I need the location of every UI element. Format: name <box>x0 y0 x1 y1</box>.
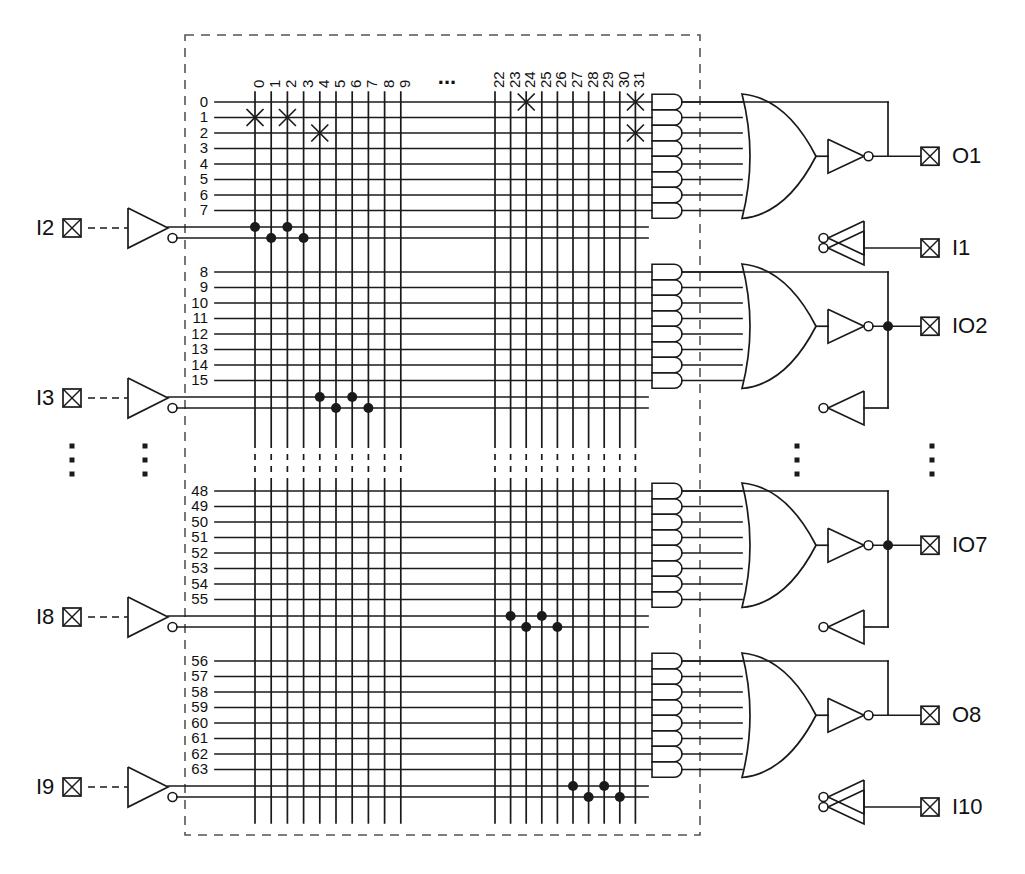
ellipsis-input-pin-dot-0 <box>70 444 75 449</box>
ellipsis-input-pin-dot-1 <box>70 458 75 463</box>
and-gate-48 <box>652 483 682 499</box>
column-label-22: 22 <box>490 71 507 88</box>
diagram-canvas: 012345678922232425262728293031...0123456… <box>0 0 1025 874</box>
and-gate-2 <box>652 125 682 141</box>
column-label-0: 0 <box>250 80 267 88</box>
connection-dot-I8-col23 <box>506 611 516 621</box>
and-gate-9 <box>652 280 682 296</box>
connection-dot-I2-col3 <box>299 233 309 243</box>
column-label-25: 25 <box>537 71 554 88</box>
column-label-4: 4 <box>315 80 332 88</box>
ellipsis-input-buffer-dot-0 <box>143 444 148 449</box>
output-inverter-block-3 <box>828 528 864 562</box>
output-inverter-block-4 <box>828 698 864 732</box>
output-pin-label-IO2: IO2 <box>952 313 987 338</box>
row-label-58: 58 <box>191 683 208 700</box>
column-label-27: 27 <box>568 71 585 88</box>
column-break-mask <box>213 442 652 478</box>
ellipsis-feedback-buffer-dot-2 <box>795 472 800 477</box>
input-buffer-I2 <box>128 208 168 248</box>
and-gate-8 <box>652 264 682 280</box>
ellipsis-output-pin-dot-1 <box>930 458 935 463</box>
output-inverter-bubble-block-4 <box>864 711 873 720</box>
and-gate-12 <box>652 326 682 342</box>
connection-dot-I9-col27 <box>568 781 578 791</box>
connection-dot-I9-col30 <box>615 792 625 802</box>
column-label-30: 30 <box>615 71 632 88</box>
feedback-buffer-b-bubble-block-4 <box>819 803 828 812</box>
input-buffer-bubble-I9 <box>168 793 177 802</box>
connection-dot-I9-col28 <box>584 792 594 802</box>
column-label-1: 1 <box>266 80 283 88</box>
row-label-5: 5 <box>200 170 208 187</box>
row-label-49: 49 <box>191 497 208 514</box>
and-gate-1 <box>652 110 682 126</box>
input-pin-label-I1: I1 <box>952 235 970 260</box>
row-label-59: 59 <box>191 698 208 715</box>
row-label-7: 7 <box>200 201 208 218</box>
row-label-53: 53 <box>191 559 208 576</box>
feedback-buffer-b-bubble-block-1 <box>819 244 828 253</box>
row-label-12: 12 <box>191 325 208 342</box>
connection-dot-I2-col1 <box>266 233 276 243</box>
row-label-3: 3 <box>200 139 208 156</box>
connection-dot-I8-col24 <box>521 622 531 632</box>
row-label-57: 57 <box>191 667 208 684</box>
input-buffer-I3 <box>128 378 168 418</box>
column-label-3: 3 <box>299 80 316 88</box>
and-gate-49 <box>652 499 682 515</box>
and-gate-6 <box>652 187 682 203</box>
input-pin-label-I2: I2 <box>36 215 54 240</box>
row-label-62: 62 <box>191 745 208 762</box>
connection-dot-I8-col25 <box>537 611 547 621</box>
connection-dot-I9-col29 <box>599 781 609 791</box>
connection-dot-I2-col2 <box>282 222 292 232</box>
column-label-31: 31 <box>630 71 647 88</box>
and-gate-4 <box>652 156 682 172</box>
row-label-14: 14 <box>191 356 208 373</box>
input-pin-label-I3: I3 <box>36 385 54 410</box>
row-label-6: 6 <box>200 186 208 203</box>
and-gate-60 <box>652 715 682 731</box>
ellipsis-output-pin-dot-0 <box>930 444 935 449</box>
column-label-24: 24 <box>521 71 538 88</box>
connection-dot-I3-col5 <box>331 403 341 413</box>
connection-dot-I3-col7 <box>363 403 373 413</box>
feedback-buffer-block-3 <box>828 610 864 644</box>
row-label-8: 8 <box>200 263 208 280</box>
row-label-1: 1 <box>200 108 208 125</box>
column-label-28: 28 <box>584 71 601 88</box>
and-gate-52 <box>652 545 682 561</box>
and-gate-14 <box>652 357 682 373</box>
row-label-55: 55 <box>191 590 208 607</box>
input-buffer-bubble-I3 <box>168 404 177 413</box>
feedback-buffer-bubble-block-2 <box>819 404 828 413</box>
and-gate-58 <box>652 684 682 700</box>
ellipsis-columns: ... <box>438 64 456 89</box>
column-label-5: 5 <box>331 80 348 88</box>
and-gate-13 <box>652 342 682 358</box>
input-pin-label-I8: I8 <box>36 604 54 629</box>
feedback-buffer-bubble-block-1 <box>819 234 828 243</box>
input-pin-label-I10: I10 <box>952 794 983 819</box>
and-gate-3 <box>652 141 682 157</box>
output-pin-label-O1: O1 <box>952 143 981 168</box>
and-gate-7 <box>652 203 682 219</box>
column-label-29: 29 <box>599 71 616 88</box>
column-label-2: 2 <box>282 80 299 88</box>
ellipsis-input-buffer-dot-1 <box>143 458 148 463</box>
and-gate-59 <box>652 700 682 716</box>
and-gate-61 <box>652 731 682 747</box>
pla-schematic: 012345678922232425262728293031...0123456… <box>0 0 1025 874</box>
row-label-48: 48 <box>191 482 208 499</box>
row-label-15: 15 <box>191 371 208 388</box>
input-buffer-I8 <box>128 597 168 637</box>
ellipsis-output-pin-dot-2 <box>930 472 935 477</box>
and-gate-15 <box>652 373 682 389</box>
row-label-13: 13 <box>191 340 208 357</box>
and-gate-54 <box>652 576 682 592</box>
input-pin-label-I9: I9 <box>36 774 54 799</box>
row-label-51: 51 <box>191 528 208 545</box>
row-label-63: 63 <box>191 760 208 777</box>
row-label-54: 54 <box>191 575 208 592</box>
